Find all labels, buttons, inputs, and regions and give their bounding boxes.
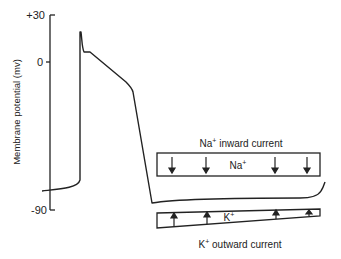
k-current-box — [157, 209, 320, 228]
y-axis — [46, 15, 55, 210]
k-ion-label: K+ — [224, 211, 235, 223]
arrow-up-icon — [171, 213, 177, 226]
arrow-up-icon — [204, 212, 210, 224]
arrow-down-icon — [304, 157, 310, 173]
tick-minus90: -90 — [31, 204, 47, 216]
na-current-label: Na+ inward current — [199, 137, 282, 149]
arrow-up-icon — [306, 210, 312, 216]
arrow-down-icon — [203, 157, 209, 173]
y-axis-title: Membrane potential (mv) — [11, 59, 22, 165]
k-current-label: K+ outward current — [198, 238, 281, 250]
arrow-down-icon — [272, 157, 278, 173]
action-potential-trace — [42, 32, 325, 203]
na-ion-label: Na+ — [230, 159, 247, 171]
arrow-down-icon — [169, 157, 175, 173]
tick-zero: 0 — [37, 56, 43, 68]
arrow-up-icon — [273, 210, 279, 219]
tick-plus30: +30 — [26, 9, 45, 21]
action-potential-diagram: +30 0 -90 Membrane potential (mv) Na+ in… — [0, 0, 341, 259]
